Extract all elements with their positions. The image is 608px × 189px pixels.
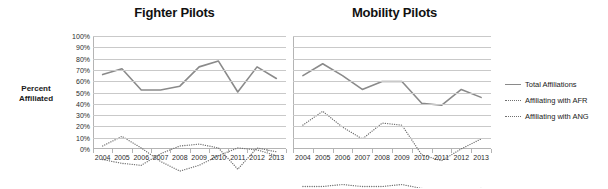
x-axis-tick	[112, 149, 113, 153]
x-axis-tick	[392, 149, 393, 153]
x-axis-tick-label: 2012	[454, 154, 470, 162]
x-axis-tick-label: 2006	[133, 154, 149, 162]
legend-line-icon	[505, 111, 521, 121]
x-axis-tick-label: 2007	[153, 154, 169, 162]
chart-legend: Total AffiliationsAffiliating with AFRAf…	[505, 76, 605, 124]
x-axis-tick	[491, 149, 492, 153]
gridline	[293, 138, 491, 139]
chart-panel-fighter-pilots: Fighter Pilots 0%10%20%30%40%50%60%70%80…	[62, 0, 287, 188]
x-axis-tick	[471, 149, 472, 153]
legend-line-icon	[505, 95, 521, 105]
x-axis-tick	[412, 149, 413, 153]
x-axis-tick	[293, 149, 294, 153]
x-axis-tick-label: 2005	[315, 154, 331, 162]
y-axis-tick-label: 100%	[72, 33, 90, 40]
x-axis-tick	[352, 149, 353, 153]
gridline	[293, 93, 491, 94]
x-axis-tick-label: 2008	[172, 154, 188, 162]
legend-item: Affiliating with ANG	[505, 108, 605, 124]
gridline	[93, 104, 286, 105]
series-line	[103, 61, 277, 92]
x-axis-tick-label: 2013	[473, 154, 489, 162]
legend-item: Affiliating with AFR	[505, 92, 605, 108]
y-axis-title-line1: Percent	[8, 84, 64, 94]
y-axis-tick-label: 70%	[76, 66, 90, 73]
x-axis-tick-label: 2007	[355, 154, 371, 162]
y-axis-tick-label: 90%	[76, 44, 90, 51]
y-axis-tick-label: 30%	[76, 112, 90, 119]
legend-item: Total Affiliations	[505, 76, 605, 92]
gridline	[93, 81, 286, 82]
gridline	[293, 36, 491, 37]
gridline	[93, 47, 286, 48]
x-axis-tick	[313, 149, 314, 153]
x-axis-tick	[267, 149, 268, 153]
legend-item-label: Total Affiliations	[525, 80, 577, 89]
gridline	[293, 81, 491, 82]
plot-area-fighter-pilots: 0%10%20%30%40%50%60%70%80%90%100%2004200…	[93, 36, 286, 149]
chart-title-fighter-pilots: Fighter Pilots	[62, 5, 287, 20]
gridline	[93, 126, 286, 127]
gridline	[93, 59, 286, 60]
x-axis-tick-label: 2009	[191, 154, 207, 162]
x-axis-tick	[132, 149, 133, 153]
x-axis-tick	[93, 149, 94, 153]
gridline	[293, 115, 491, 116]
x-axis-tick	[151, 149, 152, 153]
gridline	[93, 138, 286, 139]
x-axis-tick	[451, 149, 452, 153]
gridline	[93, 93, 286, 94]
x-axis-tick-label: 2004	[295, 154, 311, 162]
legend-item-label: Affiliating with ANG	[525, 112, 589, 121]
x-axis-tick-label: 2006	[335, 154, 351, 162]
chart-title-mobility-pilots: Mobility Pilots	[287, 5, 502, 20]
plot-area-mobility-pilots: 2004200520062007200820092010201120122013	[293, 36, 491, 149]
x-axis-tick-label: 2009	[394, 154, 410, 162]
series-line	[303, 185, 481, 189]
y-axis-tick-label: 0%	[80, 146, 90, 153]
gridline	[93, 115, 286, 116]
gridline	[293, 126, 491, 127]
gridline	[293, 70, 491, 71]
gridline	[293, 104, 491, 105]
x-axis-tick-label: 2004	[95, 154, 111, 162]
x-axis-tick	[432, 149, 433, 153]
chart-figure: Percent Affiliated Fighter Pilots 0%10%2…	[0, 0, 608, 188]
x-axis-tick	[333, 149, 334, 153]
gridline	[93, 36, 286, 37]
y-axis-title-line2: Affiliated	[8, 94, 64, 104]
x-axis-tick-label: 2005	[114, 154, 130, 162]
gridline	[293, 47, 491, 48]
x-axis-tick	[190, 149, 191, 153]
x-axis-tick-label: 2008	[374, 154, 390, 162]
legend-line-icon	[505, 79, 521, 89]
x-axis-tick-label: 2011	[230, 154, 245, 162]
y-axis-title: Percent Affiliated	[8, 84, 64, 104]
x-axis-tick	[228, 149, 229, 153]
gridline	[93, 70, 286, 71]
x-axis-tick-label: 2010	[414, 154, 430, 162]
x-axis-tick	[170, 149, 171, 153]
x-axis-tick-label: 2011	[434, 154, 449, 162]
y-axis-tick-label: 20%	[76, 123, 90, 130]
x-axis-tick-label: 2012	[249, 154, 265, 162]
x-axis-tick-label: 2010	[211, 154, 227, 162]
y-axis-tick-label: 80%	[76, 55, 90, 62]
y-axis-tick-label: 10%	[76, 134, 90, 141]
x-axis-tick	[372, 149, 373, 153]
y-axis-tick-label: 40%	[76, 100, 90, 107]
gridline	[293, 59, 491, 60]
x-axis-tick	[247, 149, 248, 153]
chart-panel-mobility-pilots: Mobility Pilots 200420052006200720082009…	[287, 0, 502, 188]
x-axis-tick-label: 2013	[269, 154, 285, 162]
legend-item-label: Affiliating with AFR	[525, 96, 587, 105]
y-axis-tick-label: 60%	[76, 78, 90, 85]
y-axis-tick-label: 50%	[76, 89, 90, 96]
x-axis-tick	[209, 149, 210, 153]
